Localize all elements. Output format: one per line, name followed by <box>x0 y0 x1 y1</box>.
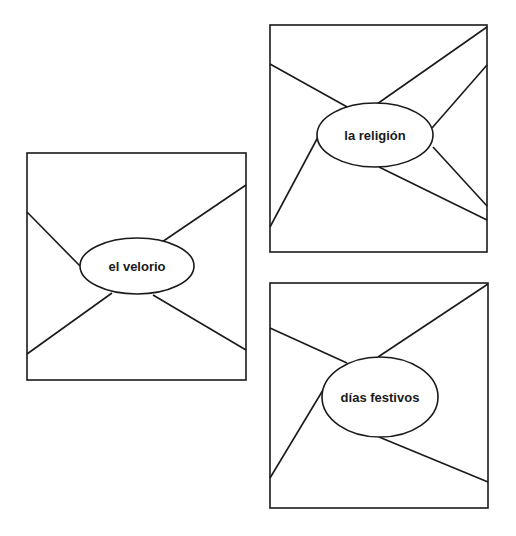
spoke-line <box>27 212 80 266</box>
spoke-line <box>270 328 347 363</box>
spoke-line <box>379 167 487 220</box>
spoke-line <box>432 65 487 128</box>
spoke-line <box>378 284 488 357</box>
web-diagram-el-velorio: el velorio <box>27 153 246 380</box>
spoke-line <box>162 185 246 242</box>
web-diagram-dias-festivos: días festivos <box>270 283 488 508</box>
spoke-line <box>153 295 246 350</box>
spoke-line <box>270 390 323 478</box>
spoke-line <box>270 64 349 108</box>
central-node-label: la religión <box>344 128 405 143</box>
spoke-line <box>270 137 318 227</box>
spoke-line <box>27 293 112 354</box>
diagram-canvas: el velorio la religión días festivos <box>0 0 516 536</box>
central-node-label: días festivos <box>341 390 420 405</box>
central-node-label: el velorio <box>108 259 165 274</box>
spoke-line <box>377 27 487 104</box>
web-diagram-la-religion: la religión <box>270 25 487 252</box>
spoke-line <box>379 437 488 482</box>
